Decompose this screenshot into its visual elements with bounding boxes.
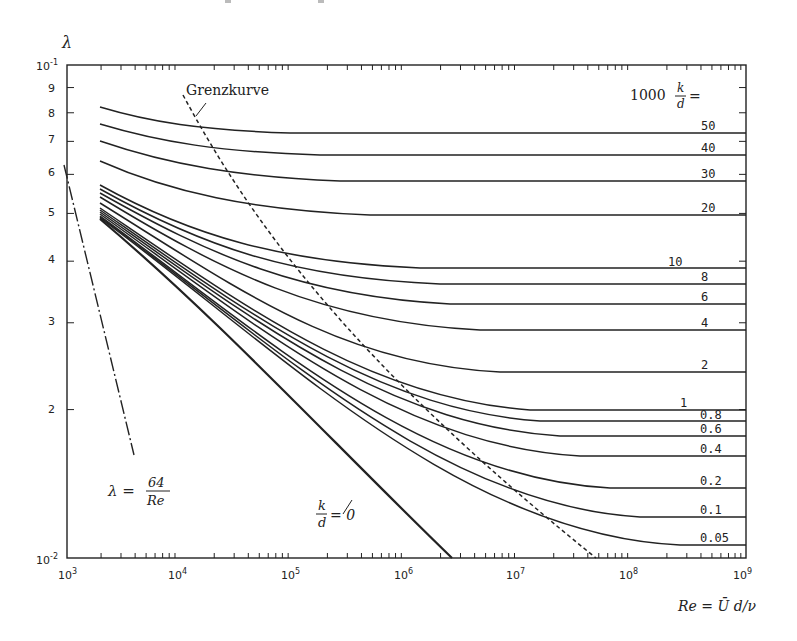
svg-text:8: 8 — [701, 270, 708, 284]
svg-text:Re: Re — [146, 493, 165, 508]
svg-text:0.05: 0.05 — [700, 531, 729, 545]
svg-text:= 0: = 0 — [330, 507, 355, 523]
y-tick-6: 6 — [48, 166, 55, 179]
laminar-annotation: λ = 64 Re — [107, 475, 170, 508]
y-tick-5: 5 — [48, 206, 55, 219]
svg-text:d: d — [677, 97, 685, 111]
svg-text:2: 2 — [701, 358, 708, 372]
curve-kd-0_4 — [100, 214, 746, 456]
svg-text:40: 40 — [701, 141, 715, 155]
svg-text:30: 30 — [701, 167, 715, 181]
svg-text:10: 10 — [668, 255, 682, 269]
grenzkurve-label: Grenzkurve — [186, 82, 269, 98]
svg-text:=: = — [689, 88, 701, 104]
curve-kd-0_6 — [100, 212, 746, 436]
svg-text:20: 20 — [701, 201, 715, 215]
curve-kd-8 — [100, 189, 746, 284]
smooth-pipe-annotation: k d = 0 — [316, 498, 355, 530]
y-axis-ticks — [67, 88, 746, 410]
x-tick-labels: 103 104 105 106 107 108 109 — [58, 567, 752, 582]
x-tick-1e5: 105 — [281, 567, 300, 582]
y-tick-8: 8 — [48, 107, 55, 120]
curve-kd-30 — [100, 141, 746, 181]
cropped-header-remnant — [225, 0, 324, 3]
x-tick-1e4: 104 — [168, 567, 187, 582]
curve-kd-1 — [100, 208, 746, 410]
svg-text:64: 64 — [148, 475, 165, 490]
curve-kd-20 — [100, 161, 746, 215]
curve-kd-10 — [100, 185, 746, 268]
svg-text:0.2: 0.2 — [700, 474, 722, 488]
x-tick-1e9: 109 — [733, 567, 752, 582]
legend-header: 1000 k d = — [630, 81, 701, 111]
svg-text:k: k — [677, 81, 684, 95]
y-tick-2: 2 — [48, 403, 55, 416]
x-tick-1e7: 107 — [506, 567, 525, 582]
x-axis-ticks — [101, 65, 741, 558]
curve-kd-40 — [100, 124, 746, 155]
curve-kd-0_2 — [100, 216, 746, 488]
svg-text:1000: 1000 — [630, 87, 666, 103]
laminar-line — [64, 165, 134, 455]
svg-text:4: 4 — [701, 316, 708, 330]
y-tick-labels: 10-1 10-2 9 8 7 6 5 4 3 2 — [36, 58, 58, 567]
curve-labels: 50 40 30 20 10 8 6 4 2 1 0.8 0.6 0.4 0.2… — [668, 119, 729, 545]
plot-frame — [67, 65, 746, 558]
y-axis-title: λ — [61, 33, 72, 52]
svg-text:0.6: 0.6 — [700, 422, 722, 436]
y-tick-3: 3 — [48, 315, 55, 328]
svg-text:0.1: 0.1 — [700, 503, 722, 517]
curve-kd-0_1 — [100, 217, 746, 517]
curve-kd-6 — [100, 193, 746, 304]
x-tick-1e6: 106 — [394, 567, 413, 582]
moody-diagram: 103 104 105 106 107 108 109 10-1 10-2 9 … — [0, 0, 797, 641]
x-tick-1e3: 103 — [58, 567, 77, 582]
x-axis-title: Re = Ū d/ν — [677, 597, 756, 614]
y-tick-9: 9 — [48, 82, 55, 95]
grenzkurve-line — [183, 95, 596, 558]
x-tick-1e8: 108 — [619, 567, 638, 582]
curve-kd-0_05 — [100, 218, 746, 545]
roughness-curves — [100, 107, 746, 558]
svg-text:6: 6 — [701, 290, 708, 304]
svg-text:0.4: 0.4 — [700, 442, 722, 456]
y-tick-1e-2: 10-2 — [36, 552, 58, 567]
svg-text:λ =: λ = — [107, 482, 135, 500]
svg-text:k: k — [318, 498, 326, 513]
svg-text:1: 1 — [680, 396, 687, 410]
y-tick-7: 7 — [48, 133, 55, 146]
svg-text:0.8: 0.8 — [700, 408, 722, 422]
y-tick-1e-1: 10-1 — [36, 58, 58, 73]
y-tick-4: 4 — [48, 253, 55, 266]
svg-text:50: 50 — [701, 119, 715, 133]
svg-text:d: d — [318, 515, 326, 530]
grenzkurve-pointer — [196, 103, 206, 116]
